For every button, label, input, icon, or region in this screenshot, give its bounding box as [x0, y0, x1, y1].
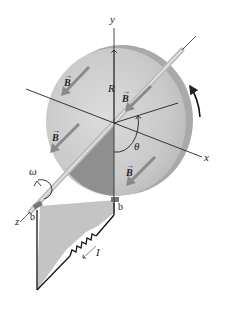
current-label: I	[96, 247, 100, 258]
z-axis-extension	[20, 212, 30, 222]
omega-label: ω	[29, 166, 37, 177]
axle-extension	[182, 36, 196, 50]
circuit-plane	[37, 200, 115, 290]
theta-label: θ	[134, 141, 139, 152]
brush-right-label: b	[118, 202, 123, 212]
radius-label: R	[108, 83, 115, 94]
z-axis-label: z	[15, 216, 19, 227]
y-axis-label: y	[110, 14, 115, 25]
field-label-2: B	[122, 94, 129, 104]
diagram-graphics	[0, 0, 225, 313]
field-label-4: B	[126, 168, 133, 178]
x-axis-label: x	[204, 152, 209, 163]
current-arrow	[83, 246, 96, 258]
faraday-disk-diagram: y x z R θ ω I b b B B B B	[0, 0, 225, 313]
field-label-3: B	[52, 133, 59, 143]
brush-left-label: b	[30, 212, 35, 222]
field-label-1: B	[64, 78, 71, 88]
